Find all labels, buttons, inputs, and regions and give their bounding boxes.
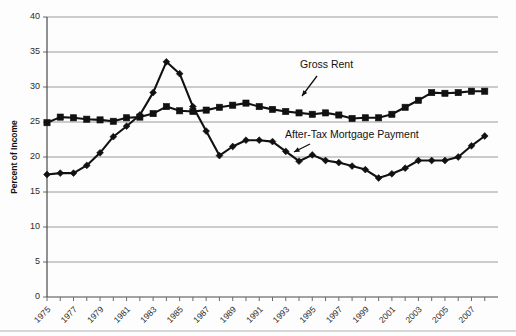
- y-axis-tick-label: 40: [30, 11, 40, 21]
- x-axis-tick-label: 2007: [456, 304, 477, 325]
- data-point-marker: [402, 104, 408, 110]
- data-point-marker: [335, 159, 342, 166]
- data-point-marker: [57, 170, 64, 177]
- x-axis-tick-label: 1977: [58, 304, 79, 325]
- data-point-marker: [256, 104, 262, 110]
- data-point-marker: [110, 118, 116, 124]
- data-point-marker: [415, 97, 421, 103]
- x-axis-tick-label: 1979: [85, 304, 106, 325]
- data-point-marker: [296, 110, 302, 116]
- annotations-group: Gross RentAfter-Tax Mortgage Payment: [285, 58, 419, 152]
- data-point-marker: [429, 90, 435, 96]
- data-point-marker: [442, 157, 449, 164]
- x-axis-tick-label: 1991: [244, 304, 265, 325]
- data-point-marker: [256, 137, 263, 144]
- data-point-marker: [322, 157, 329, 164]
- data-point-marker: [336, 112, 342, 118]
- data-point-marker: [177, 108, 183, 114]
- data-point-marker: [243, 100, 249, 106]
- data-point-marker: [44, 120, 50, 126]
- data-point-marker: [376, 115, 382, 121]
- y-axis-tick-label: 5: [35, 256, 40, 266]
- data-point-marker: [163, 104, 169, 110]
- x-axis-tick-label: 1985: [165, 304, 186, 325]
- x-axis-tick-label: 1989: [218, 304, 239, 325]
- data-point-marker: [455, 90, 461, 96]
- data-point-marker: [349, 115, 355, 121]
- data-point-marker: [203, 107, 209, 113]
- x-axis-tick-label: 1995: [297, 304, 318, 325]
- chart-container: 0510152025303540197519771979198119831985…: [0, 0, 516, 336]
- data-point-marker: [97, 117, 103, 123]
- x-axis-tick-label: 1999: [350, 304, 371, 325]
- y-axis-tick-label: 20: [30, 151, 40, 161]
- data-point-marker: [57, 114, 63, 120]
- data-point-marker: [362, 115, 368, 121]
- y-axis-tick-label: 30: [30, 81, 40, 91]
- data-point-marker: [230, 102, 236, 108]
- chart-canvas: 0510152025303540197519771979198119831985…: [0, 0, 516, 336]
- y-axis-tick-label: 0: [35, 291, 40, 301]
- annotation-gross-rent-label: Gross Rent: [300, 58, 353, 70]
- x-axis-tick-label: 1993: [271, 304, 292, 325]
- data-point-marker: [389, 111, 395, 117]
- data-point-marker: [468, 88, 474, 94]
- data-point-marker: [442, 90, 448, 96]
- data-point-marker: [482, 88, 488, 94]
- x-axis-tick-label: 2001: [377, 304, 398, 325]
- data-point-marker: [349, 163, 356, 170]
- y-axis-tick-label: 35: [30, 46, 40, 56]
- x-axis-tick-label: 1987: [191, 304, 212, 325]
- data-point-marker: [243, 137, 250, 144]
- x-axis-tick-label: 1983: [138, 304, 159, 325]
- data-point-marker: [123, 115, 129, 121]
- data-point-marker: [283, 108, 289, 114]
- x-axis-tick-label: 1981: [112, 304, 133, 325]
- y-axis-tick-label: 10: [30, 221, 40, 231]
- data-point-marker: [388, 170, 395, 177]
- x-axis-tick-label: 1997: [324, 304, 345, 325]
- data-point-marker: [428, 157, 435, 164]
- annotation-after-tax-mortgage-payment-label: After-Tax Mortgage Payment: [285, 128, 419, 140]
- x-axis-tick-label: 1975: [32, 304, 53, 325]
- x-axis-tick-label: 2005: [430, 304, 451, 325]
- x-axis-group: 1975197719791981198319851987198919911993…: [32, 297, 485, 325]
- data-point-marker: [44, 171, 51, 178]
- y-axis-tick-label: 15: [30, 186, 40, 196]
- series-gross-rent: [44, 88, 488, 126]
- data-point-marker: [150, 111, 156, 117]
- x-axis-tick-label: 2003: [403, 304, 424, 325]
- y-axis-title: Percent of Income: [9, 120, 19, 194]
- data-point-marker: [216, 104, 222, 110]
- y-axis-tick-label: 25: [30, 116, 40, 126]
- data-point-marker: [84, 116, 90, 122]
- data-point-marker: [322, 110, 328, 116]
- data-point-marker: [70, 115, 76, 121]
- data-point-marker: [309, 111, 315, 117]
- data-point-marker: [269, 106, 275, 112]
